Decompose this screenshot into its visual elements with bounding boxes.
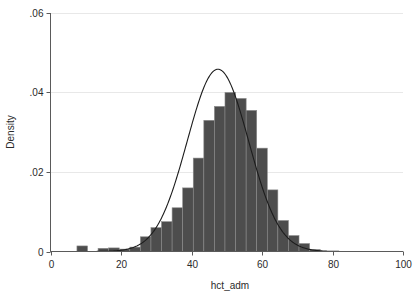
histogram-bar: [214, 106, 225, 251]
x-axis-tick-label: 20: [116, 259, 128, 270]
histogram-bar: [140, 237, 151, 252]
histogram-bar: [246, 110, 257, 251]
x-axis-tick-label: 40: [187, 259, 199, 270]
histogram-bar: [172, 208, 183, 252]
x-axis-tick-label: 0: [49, 259, 55, 270]
histogram-bar: [236, 98, 247, 251]
x-axis-tick-label: 60: [257, 259, 269, 270]
histogram-bar: [151, 228, 162, 252]
y-axis-tick-label: .06: [30, 8, 44, 19]
histogram-bar: [257, 148, 268, 251]
y-axis-title: Density: [5, 115, 16, 148]
y-axis-tick-label: 0: [38, 247, 44, 258]
histogram-bar: [278, 221, 289, 252]
histogram-chart: 0.02.04.06 020406080100 hct_adm Density: [0, 0, 414, 301]
y-axis-tick-label: .02: [30, 167, 44, 178]
chart-canvas: 0.02.04.06 020406080100 hct_adm Density: [0, 0, 414, 301]
y-axis-tick-label: .04: [30, 87, 44, 98]
histogram-bar: [162, 222, 173, 252]
histogram-bar: [183, 188, 194, 252]
histogram-bar: [77, 246, 88, 252]
histogram-bar: [193, 158, 204, 251]
x-axis-tick-label: 80: [328, 259, 340, 270]
histogram-bar: [204, 120, 215, 251]
x-axis-tick-label: 100: [395, 259, 412, 270]
x-axis-title: hct_adm: [211, 280, 249, 291]
histogram-bar: [225, 93, 236, 252]
